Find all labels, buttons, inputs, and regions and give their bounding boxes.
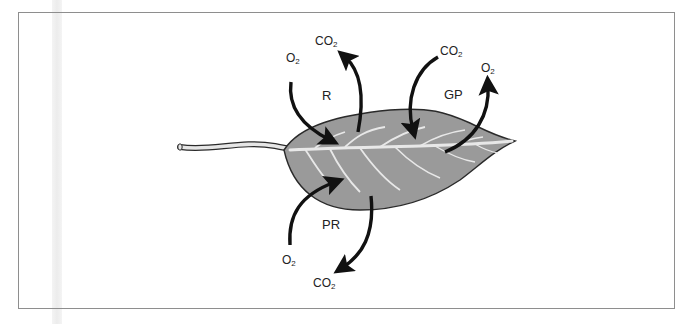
r-co2-label: CO2 xyxy=(315,35,337,49)
pr-co2-label: CO2 xyxy=(313,277,335,291)
r-region-label: R xyxy=(322,89,331,102)
gp-region-label: GP xyxy=(444,88,463,101)
r-o2-label: O2 xyxy=(286,52,300,66)
leaf-stem-icon xyxy=(178,144,300,150)
gp-co2-label: CO2 xyxy=(440,45,462,59)
pr-o2-label: O2 xyxy=(282,254,296,268)
gp-o2-label: O2 xyxy=(481,62,495,76)
leaf-diagram xyxy=(0,0,692,324)
pr-region-label: PR xyxy=(322,218,340,231)
